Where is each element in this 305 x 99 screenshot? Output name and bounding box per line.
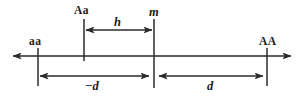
measure-arrows (40, 30, 263, 76)
label-genotype-AA: AA (259, 36, 276, 48)
genotypic-value-diagram: aa Aa m AA h −d d (0, 0, 305, 99)
label-genotype-Aa: Aa (74, 5, 89, 17)
label-positive-d: d (207, 80, 213, 93)
label-dominance-h: h (114, 16, 121, 29)
label-negative-d: −d (85, 80, 99, 93)
label-midpoint-m: m (149, 6, 159, 19)
label-genotype-aa: aa (29, 36, 41, 48)
tick-lines (38, 19, 267, 88)
